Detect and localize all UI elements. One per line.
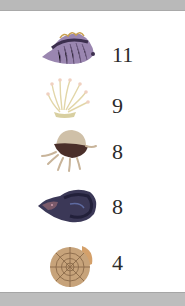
- count-label: 8: [112, 196, 123, 218]
- top-bar: [0, 0, 185, 11]
- bottom-bar: [0, 292, 185, 306]
- count-label: 8: [112, 141, 123, 163]
- list-item: 8: [0, 122, 185, 172]
- count-label: 11: [112, 44, 133, 66]
- ammonite-icon: [30, 238, 100, 288]
- jellyfish-icon: [30, 122, 100, 172]
- list-item: 9: [0, 72, 185, 122]
- list-item: 8: [0, 180, 185, 230]
- conch-shell-icon: [30, 180, 100, 230]
- list-item: 4: [0, 238, 185, 288]
- sea-anemone-icon: [30, 72, 100, 122]
- list-item: 11: [0, 22, 185, 72]
- count-label: 4: [112, 252, 123, 274]
- count-label: 9: [112, 95, 123, 117]
- striped-shell-icon: [30, 22, 100, 72]
